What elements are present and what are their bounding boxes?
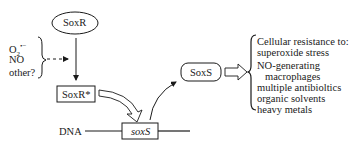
resistance-hollow-arrow [225,64,247,80]
soxs-protein-label: SoxS [190,67,212,78]
soxr-active-label: SoxR* [62,89,91,100]
resistance-title: Cellular resistance to: [257,36,349,47]
dna-label: DNA [59,126,82,137]
resistance-item: multiple antibioltics [257,82,341,93]
soxs-gene-label: soxS [131,126,150,137]
resistance-item: heavy metals [257,104,312,115]
soxr-label: SoxR [63,17,86,28]
signal-brace [38,37,46,78]
soxrs-regulon-diagram: SoxR O2•− NO other? SoxR* DNA soxS SoxS … [0,0,353,146]
resistance-item: organic solvents [257,93,325,104]
o2-base: O [9,44,17,55]
resistance-item: NO-generating [257,60,320,71]
resistance-item: macrophages [265,71,320,82]
binding-hollow-arrow [99,90,142,122]
resistance-brace [248,35,256,110]
signal-other: other? [9,67,35,78]
resistance-item: superoxide stress [257,47,329,58]
signal-no: NO [9,54,24,65]
expression-arrow [150,82,176,120]
